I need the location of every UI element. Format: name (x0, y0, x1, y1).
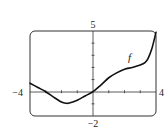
x-max-label: 4 (159, 87, 164, 98)
curve-label-f: f (128, 51, 133, 63)
y-max-label: 5 (91, 19, 96, 30)
y-min-label: −2 (88, 118, 99, 129)
x-min-label: −4 (12, 87, 23, 98)
chart: 5 −2 −4 4 f (0, 0, 167, 132)
